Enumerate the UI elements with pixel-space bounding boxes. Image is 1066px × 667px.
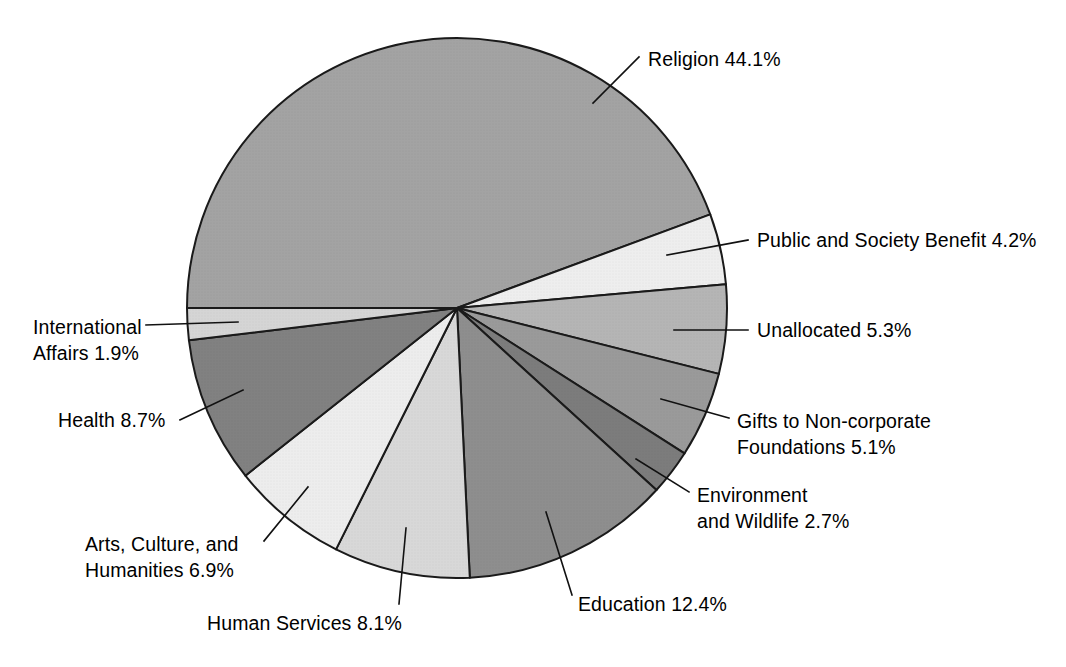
pie-label-line: Unallocated 5.3% [757, 319, 911, 341]
pie-label-health: Health 8.7% [58, 409, 165, 431]
pie-chart-svg: Religion 44.1%Public and Society Benefit… [0, 0, 1066, 667]
pie-label-line: Humanities 6.9% [85, 559, 234, 581]
pie-label-environment-and-wildlife: Environmentand Wildlife 2.7% [697, 484, 849, 532]
pie-label-line: Arts, Culture, and [85, 533, 239, 555]
pie-label-line: Affairs 1.9% [33, 342, 139, 364]
pie-label-line: Human Services 8.1% [207, 612, 402, 634]
pie-label-public-and-society-benefit: Public and Society Benefit 4.2% [757, 229, 1037, 251]
pie-slice-texture [187, 38, 727, 578]
pie-label-international-affairs: InternationalAffairs 1.9% [33, 316, 142, 364]
pie-label-line: and Wildlife 2.7% [697, 510, 849, 532]
pie-label-line: Health 8.7% [58, 409, 165, 431]
pie-chart-figure: Religion 44.1%Public and Society Benefit… [0, 0, 1066, 667]
pie-label-line: Education 12.4% [578, 593, 727, 615]
pie-label-education: Education 12.4% [578, 593, 727, 615]
pie-label-line: International [33, 316, 142, 338]
pie-label-arts-culture-and-humanities: Arts, Culture, andHumanities 6.9% [85, 533, 239, 581]
pie-label-line: Public and Society Benefit 4.2% [757, 229, 1037, 251]
pie-label-line: Foundations 5.1% [737, 436, 896, 458]
pie-label-line: Gifts to Non-corporate [737, 410, 931, 432]
pie-label-religion: Religion 44.1% [648, 48, 781, 70]
pie-label-human-services: Human Services 8.1% [207, 612, 402, 634]
pie-label-line: Environment [697, 484, 808, 506]
pie-label-gifts-to-non-corporate-foundations: Gifts to Non-corporateFoundations 5.1% [737, 410, 931, 458]
pie-label-line: Religion 44.1% [648, 48, 781, 70]
pie-label-unallocated: Unallocated 5.3% [757, 319, 911, 341]
